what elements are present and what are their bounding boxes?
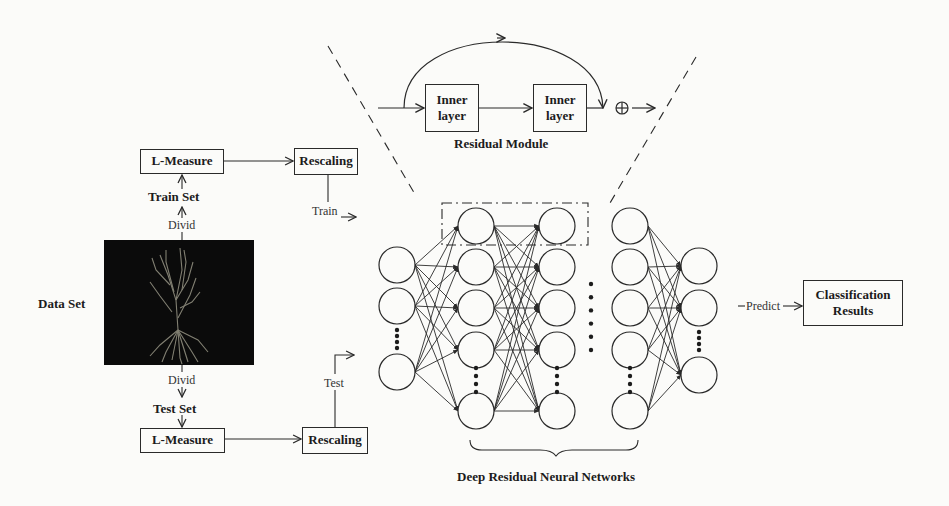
ellipsis-dot bbox=[395, 340, 399, 344]
ellipsis-dot bbox=[555, 390, 559, 394]
data-set-image bbox=[104, 240, 254, 365]
ellipsis-dot bbox=[395, 346, 399, 350]
ellipsis-dot bbox=[395, 328, 399, 332]
neuron-node bbox=[379, 354, 415, 390]
ellipsis-dot bbox=[697, 336, 701, 340]
connection-edge bbox=[415, 267, 458, 372]
ellipsis-dot bbox=[395, 334, 399, 338]
inner-layer-box-1: Inner layer bbox=[425, 84, 479, 132]
connection-edge bbox=[415, 226, 458, 372]
rescaling-train-label: Rescaling bbox=[299, 153, 352, 169]
ellipsis-dot bbox=[474, 382, 478, 386]
neuron-node bbox=[458, 249, 494, 285]
neuron-node bbox=[379, 288, 415, 324]
train-flow-label: Train bbox=[312, 205, 338, 217]
connection-edge bbox=[648, 375, 681, 411]
connection-edge bbox=[648, 308, 681, 375]
inner-layer-box-2: Inner layer bbox=[533, 84, 587, 132]
rescaling-test-label: Rescaling bbox=[308, 432, 361, 448]
neuron-node bbox=[612, 290, 648, 326]
ellipsis-dot bbox=[589, 282, 593, 286]
ellipsis-dot bbox=[589, 335, 593, 339]
ellipsis-dot bbox=[589, 321, 593, 325]
ellipsis-dot bbox=[555, 374, 559, 378]
neuron-node bbox=[539, 332, 575, 368]
ellipsis-dot bbox=[555, 382, 559, 386]
network-neurons bbox=[379, 208, 717, 429]
connection-edge bbox=[648, 266, 681, 267]
l-measure-test-label: L-Measure bbox=[152, 432, 213, 448]
test-set-label: Test Set bbox=[153, 402, 196, 415]
l-measure-train-label: L-Measure bbox=[151, 153, 212, 169]
neuron-node bbox=[681, 248, 717, 284]
test-flow-label: Test bbox=[324, 377, 344, 389]
ellipsis-dot bbox=[555, 366, 559, 370]
neuron-node bbox=[681, 357, 717, 393]
connection-edge bbox=[648, 308, 681, 350]
network-brace bbox=[470, 440, 638, 456]
divid-train-label: Divid bbox=[168, 219, 195, 231]
connection-edge bbox=[415, 306, 458, 411]
connection-edge bbox=[415, 350, 458, 372]
zoom-guide-lines bbox=[328, 46, 696, 203]
neuron-node bbox=[539, 249, 575, 285]
train-set-label: Train Set bbox=[148, 190, 199, 203]
ellipsis-dot bbox=[628, 390, 632, 394]
data-set-label: Data Set bbox=[38, 297, 85, 310]
neuron-node bbox=[539, 393, 575, 429]
ellipsis-dot bbox=[628, 382, 632, 386]
inner-layer-2-line1: Inner bbox=[544, 92, 575, 107]
neuron-node bbox=[612, 332, 648, 368]
ellipsis-dot bbox=[628, 366, 632, 370]
neuron-node bbox=[458, 393, 494, 429]
ellipsis-dot bbox=[474, 390, 478, 394]
inner-layer-1-line1: Inner bbox=[436, 92, 467, 107]
ellipsis-dot bbox=[474, 374, 478, 378]
divid-test-label: Divid bbox=[168, 374, 195, 386]
connection-edge bbox=[648, 226, 681, 266]
neuron-node bbox=[612, 208, 648, 244]
classification-results-line2: Results bbox=[833, 303, 873, 318]
neuron-node bbox=[379, 247, 415, 283]
connection-edge bbox=[415, 372, 458, 411]
ellipsis-dot bbox=[628, 374, 632, 378]
l-measure-train-box: L-Measure bbox=[140, 149, 224, 174]
neuron-node bbox=[458, 332, 494, 368]
classification-results-line1: Classification bbox=[815, 287, 890, 302]
inner-layer-2-line2: layer bbox=[546, 108, 574, 123]
l-measure-test-box: L-Measure bbox=[140, 428, 225, 453]
neuron-node bbox=[681, 290, 717, 326]
connection-edge bbox=[415, 226, 458, 306]
residual-module bbox=[378, 38, 655, 108]
inner-layer-1-line2: layer bbox=[438, 108, 466, 123]
neuron-node bbox=[458, 290, 494, 326]
residual-module-title: Residual Module bbox=[454, 137, 548, 150]
neuron-node bbox=[612, 393, 648, 429]
ellipsis-dot bbox=[697, 342, 701, 346]
ellipsis-dot bbox=[474, 366, 478, 370]
neuron-node bbox=[458, 208, 494, 244]
rescaling-test-box: Rescaling bbox=[302, 427, 368, 454]
predict-label: Predict bbox=[746, 300, 780, 312]
rescaling-train-box: Rescaling bbox=[294, 148, 358, 175]
ellipsis-dot bbox=[589, 295, 593, 299]
ellipsis-dot bbox=[589, 348, 593, 352]
ellipsis-dot bbox=[697, 348, 701, 352]
ellipsis-dot bbox=[697, 330, 701, 334]
classification-results-box: Classification Results bbox=[803, 280, 903, 326]
network-title: Deep Residual Neural Networks bbox=[457, 470, 635, 483]
neuron-node bbox=[539, 290, 575, 326]
neuron-node bbox=[539, 208, 575, 244]
connection-edge bbox=[415, 308, 458, 372]
neuron-node bbox=[612, 249, 648, 285]
add-operator-icon bbox=[616, 102, 628, 114]
connection-edge bbox=[648, 226, 681, 375]
ellipsis-dot bbox=[589, 308, 593, 312]
connection-edge bbox=[415, 306, 458, 350]
